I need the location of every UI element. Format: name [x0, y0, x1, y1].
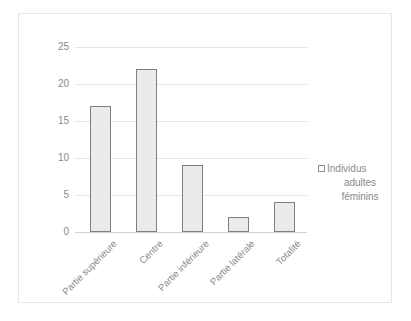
- chart-legend[interactable]: Individus adultes féminins: [318, 162, 396, 204]
- y-tick-label: 20: [29, 79, 69, 89]
- x-axis-category-labels: Partie supérieure Centre Partie inférieu…: [75, 232, 307, 321]
- y-tick-label: 5: [29, 190, 69, 200]
- gridline-25: [75, 47, 307, 48]
- y-axis-tick-labels: 25 20 15 10 5 0: [25, 47, 69, 232]
- x-label-centre: Centre: [137, 238, 165, 266]
- plot-area: [75, 47, 307, 232]
- bar-partie-laterale[interactable]: [228, 217, 249, 232]
- x-label-partie-superieure: Partie supérieure: [60, 238, 119, 297]
- legend-label-line-3: féminins: [318, 190, 396, 204]
- bar-partie-inferieure[interactable]: [182, 165, 203, 232]
- chart-frame: 25 20 15 10 5 0 Partie supérieure Centre…: [18, 13, 392, 303]
- legend-label-line-1: Individus: [327, 163, 366, 174]
- bar-centre[interactable]: [136, 69, 157, 232]
- y-tick-label: 15: [29, 116, 69, 126]
- x-label-totalite: Totalité: [274, 238, 303, 267]
- y-tick-label: 25: [29, 42, 69, 52]
- gridline-20: [75, 84, 307, 85]
- y-tick-label: 10: [29, 153, 69, 163]
- hollow-square-marker-icon: [318, 165, 325, 172]
- legend-label-line-2: adultes: [318, 176, 396, 190]
- x-label-partie-laterale: Partie latérale: [208, 238, 257, 287]
- legend-entry-individus-adultes-feminins: Individus: [318, 162, 396, 176]
- bar-totalite[interactable]: [274, 202, 295, 232]
- bar-partie-superieure[interactable]: [90, 106, 111, 232]
- y-tick-label: 0: [29, 227, 69, 237]
